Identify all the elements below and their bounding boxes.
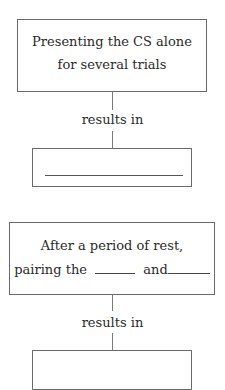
recovery-step-line2: pairing the and [10,262,214,277]
and-word: and [143,262,167,277]
extinction-step-line2: for several trials [18,57,206,72]
answer-box-1 [32,148,192,187]
recovery-step-line1: After a period of rest, [10,238,214,253]
connector-line [112,131,113,148]
blank-stimulus-1[interactable] [95,262,135,274]
connector-line [112,295,113,311]
extinction-step-line1: Presenting the CS alone [18,34,206,49]
pairing-prefix: pairing the [14,262,87,277]
connector-line [112,333,113,350]
blank-stimulus-2[interactable] [168,262,210,274]
connector-line [112,92,113,110]
spontaneous-recovery-step-box: After a period of rest, pairing the and [9,222,215,295]
extinction-step-box: Presenting the CS alone for several tria… [17,19,207,92]
results-in-label: results in [0,112,225,127]
answer-box-2 [32,350,192,390]
results-in-label: results in [0,315,225,330]
answer-blank-1[interactable] [45,175,183,176]
